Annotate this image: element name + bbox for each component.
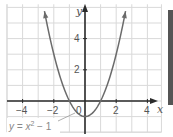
y-axis-label: y bbox=[75, 5, 83, 18]
equation-label: y = x2 − 1 bbox=[8, 120, 52, 132]
tick-label-y-2: 2 bbox=[74, 64, 80, 75]
y-axis-arrow-icon bbox=[82, 4, 88, 12]
tick-label-x-4: 4 bbox=[144, 105, 150, 116]
tick-label-x-neg4: −4 bbox=[16, 105, 28, 116]
tick-label-x-2: 2 bbox=[113, 105, 119, 116]
equation-annotation: y = x2 − 1 bbox=[7, 113, 75, 133]
side-panel-bar bbox=[168, 10, 173, 105]
tick-label-x-neg2: −2 bbox=[47, 105, 59, 116]
tick-label-y-4: 4 bbox=[74, 33, 80, 44]
parabola-graph: x y −4 −2 0 2 4 2 4 y = x2 − 1 bbox=[0, 0, 173, 137]
x-axis-label: x bbox=[157, 103, 164, 116]
